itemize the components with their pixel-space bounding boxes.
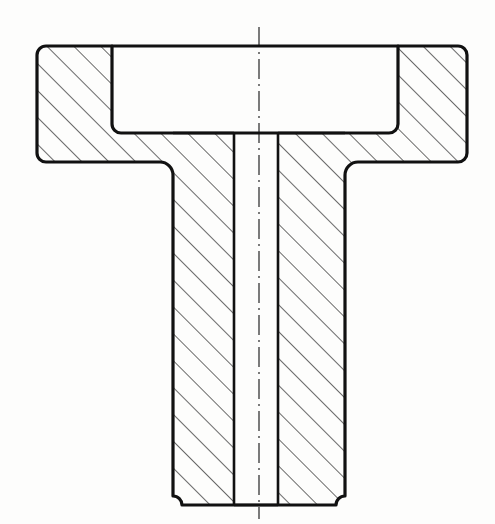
- section-view-svg: [0, 0, 495, 524]
- technical-drawing-canvas: [0, 0, 495, 524]
- section-hatching: [0, 0, 495, 524]
